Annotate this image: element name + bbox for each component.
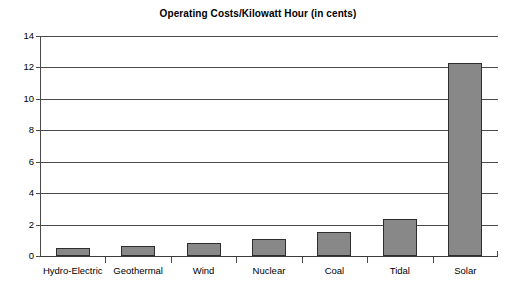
bar (252, 239, 286, 256)
y-tick-label: 4 (2, 188, 34, 198)
x-tick-mark (171, 257, 172, 263)
bar (56, 248, 90, 256)
x-tick-mark (433, 257, 434, 263)
y-tick-label: 0 (2, 251, 34, 261)
category-label: Nuclear (236, 265, 301, 276)
bar (317, 232, 351, 256)
y-tick-label: 12 (2, 62, 34, 72)
y-tick-label: 14 (2, 31, 34, 41)
y-tick-label: 6 (2, 157, 34, 167)
x-tick-mark (302, 257, 303, 263)
x-tick-mark (367, 257, 368, 263)
bar (448, 63, 482, 256)
bar (121, 246, 155, 256)
y-tick-label: 10 (2, 94, 34, 104)
bar (187, 243, 221, 256)
category-label: Hydro-Electric (40, 265, 105, 276)
bar-chart: Operating Costs/Kilowatt Hour (in cents)… (0, 0, 516, 294)
category-label: Geothermal (105, 265, 170, 276)
bar (383, 219, 417, 256)
axis-baseline (40, 256, 498, 257)
category-label: Coal (302, 265, 367, 276)
bars-layer (40, 36, 498, 256)
y-tick-label: 8 (2, 125, 34, 135)
x-tick-mark (236, 257, 237, 263)
category-label: Solar (433, 265, 498, 276)
chart-title: Operating Costs/Kilowatt Hour (in cents) (0, 8, 516, 19)
category-label: Tidal (367, 265, 432, 276)
category-label: Wind (171, 265, 236, 276)
y-tick-label: 2 (2, 220, 34, 230)
y-tick-mark (36, 256, 40, 257)
x-tick-mark (105, 257, 106, 263)
axis-end-tick (497, 251, 498, 257)
